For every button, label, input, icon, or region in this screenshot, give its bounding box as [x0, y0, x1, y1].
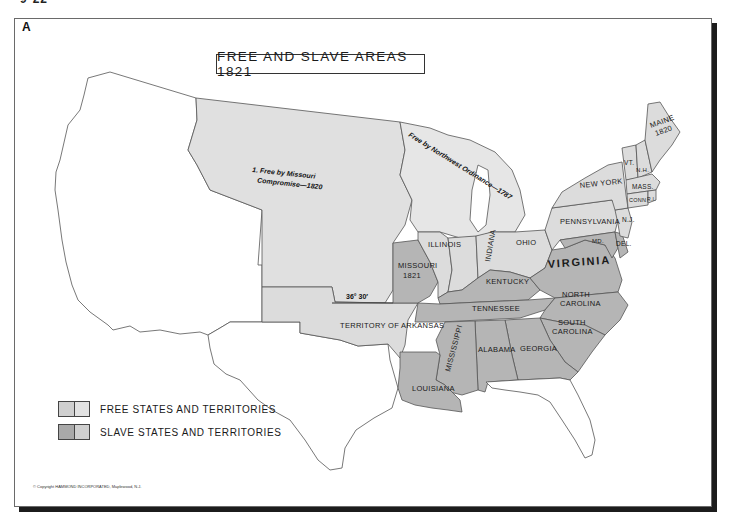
region-florida-outline: [486, 378, 595, 458]
label-pennsylvania: PENNSYLVANIA: [560, 217, 620, 226]
label-ohio: OHIO: [516, 238, 536, 247]
label-south-carolina-2: CAROLINA: [552, 327, 593, 336]
label-kentucky: KENTUCKY: [486, 277, 529, 286]
parallel-label: 36° 30′: [346, 293, 368, 300]
label-new-hampshire: N.H.: [636, 167, 649, 173]
label-illinois: ILLINOIS: [428, 240, 461, 249]
label-connecticut: CONN.: [629, 197, 648, 203]
legend-label-free: FREE STATES AND TERRITORIES: [100, 404, 276, 415]
legend-label-slave: SLAVE STATES AND TERRITORIES: [100, 427, 281, 438]
map-title-box: FREE AND SLAVE AREAS 1821: [216, 54, 425, 74]
region-maine: [645, 102, 680, 172]
label-tennessee: TENNESSEE: [472, 304, 520, 313]
copyright-text: © Copyright HAMMOND INCORPORATED, Maplew…: [33, 484, 141, 489]
label-north-carolina-2: CAROLINA: [560, 299, 601, 308]
map-title: FREE AND SLAVE AREAS 1821: [217, 49, 424, 79]
label-territory-of-arkansas: TERRITORY OF ARKANSAS: [340, 321, 444, 330]
label-georgia: GEORGIA: [520, 344, 557, 353]
label-vermont: VT.: [624, 159, 634, 166]
label-alabama: ALABAMA: [478, 345, 516, 354]
label-north-carolina: NORTH: [562, 290, 590, 299]
legend-swatch-slave: [58, 424, 90, 440]
legend: FREE STATES AND TERRITORIES SLAVE STATES…: [58, 399, 281, 445]
label-maryland: MD.: [592, 238, 604, 244]
label-massachusetts: MASS.: [632, 183, 654, 190]
label-south-carolina: SOUTH: [558, 318, 586, 327]
label-rhode-island: R.I.: [647, 196, 656, 202]
label-louisiana: LOUISIANA: [412, 384, 455, 393]
legend-item-free: FREE STATES AND TERRITORIES: [58, 399, 281, 419]
label-missouri: MISSOURI: [398, 261, 438, 270]
label-delaware: DEL.: [616, 240, 632, 247]
legend-swatch-free: [58, 401, 90, 417]
label-new-jersey: N.J.: [622, 216, 635, 223]
label-missouri-year: 1821: [403, 271, 421, 280]
legend-item-slave: SLAVE STATES AND TERRITORIES: [58, 422, 281, 442]
